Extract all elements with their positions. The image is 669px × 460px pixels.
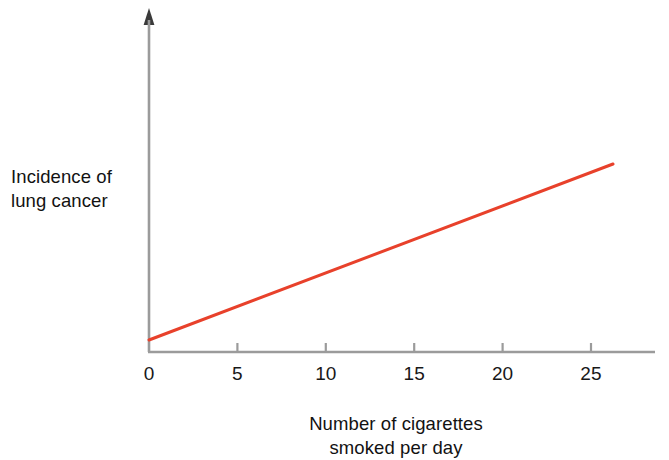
- x-axis-tick-label-25: 25: [580, 364, 601, 383]
- y-axis-title: Incidence of lung cancer: [11, 165, 139, 212]
- x-axis-tick-label-0: 0: [144, 364, 155, 383]
- x-axis-ticks: [237, 343, 591, 352]
- data-series-line: [149, 164, 613, 340]
- x-axis-tick-label-20: 20: [492, 364, 513, 383]
- x-axis-tick-label-10: 10: [315, 364, 336, 383]
- x-axis-tick-label-15: 15: [404, 364, 425, 383]
- x-axis-tick-label-5: 5: [232, 364, 243, 383]
- x-axis-title: Number of cigarettes smoked per day: [250, 412, 542, 460]
